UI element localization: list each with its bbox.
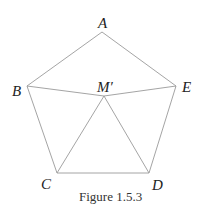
vertex-label-a: A	[97, 15, 108, 31]
vertex-label-d: D	[151, 177, 163, 193]
edge-bm	[27, 86, 104, 96]
edge-bc	[27, 86, 57, 173]
edge-md	[104, 96, 149, 173]
edges	[27, 32, 176, 173]
edge-ea	[102, 32, 176, 86]
edge-ab	[27, 32, 102, 86]
figure-caption: Figure 1.5.3	[79, 189, 142, 204]
vertex-label-c: C	[41, 176, 52, 192]
edge-me	[104, 86, 176, 96]
vertex-label-m: M′	[96, 79, 113, 95]
vertex-label-e: E	[181, 79, 191, 95]
pentagon-diagram: A B M′ E C D Figure 1.5.3	[0, 0, 202, 211]
vertex-labels: A B M′ E C D	[12, 15, 191, 193]
edge-mc	[57, 96, 104, 173]
edge-de	[149, 86, 176, 173]
vertex-label-b: B	[12, 83, 21, 99]
